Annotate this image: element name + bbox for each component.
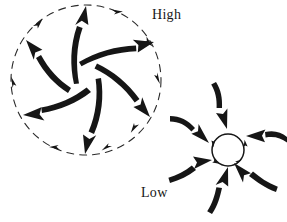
inflow-arrow [246, 130, 287, 143]
spiral-arrow [23, 87, 91, 120]
spiral-arrow [26, 40, 71, 93]
spiral-arrow-shaft [79, 46, 136, 67]
boundary-arrowhead-icon [102, 143, 112, 150]
inflow-arrow [168, 157, 212, 183]
inflow-arrow-head-icon [216, 109, 227, 129]
inflow-arrow-head-icon [246, 130, 265, 143]
inflow-arrow-shaft [249, 172, 278, 192]
inflow-arrow-head-icon [234, 163, 251, 182]
spiral-arrow-head-icon [83, 135, 96, 154]
spiral-arrow-head-icon [75, 6, 88, 25]
spiral-arrow-shaft [36, 55, 71, 93]
low-label: Low [141, 186, 168, 200]
boundary-arrowhead-icon [11, 76, 16, 88]
spiral-arrow-shaft [71, 26, 82, 84]
high-pressure-system [11, 5, 161, 155]
boundary-arrowhead-icon [49, 145, 60, 150]
high-label: High [152, 8, 181, 22]
pressure-system-diagram: .ink { fill: #161616; } .inkline { strok… [0, 0, 287, 222]
spiral-arrow-shaft [89, 78, 103, 134]
inflow-arrow-shaft [207, 187, 222, 214]
inflow-arrow [211, 82, 227, 129]
inflow-arrow [207, 167, 228, 214]
boundary-arrowhead-icon [112, 9, 123, 14]
boundary-arrowhead-icon [33, 19, 42, 28]
inflow-arrow-head-icon [191, 124, 209, 143]
inflow-arrow [234, 163, 278, 192]
spiral-arrow-head-icon [23, 107, 44, 120]
spiral-arrow [71, 6, 88, 84]
inflow-arrow-head-icon [193, 157, 212, 169]
center-arrowhead-icon [244, 140, 248, 147]
high-boundary-arrowheads [11, 9, 160, 150]
inflow-arrow-shaft [170, 116, 195, 132]
inflow-arrow-shaft [211, 82, 222, 108]
inflow-arrow-shaft [265, 131, 287, 142]
spiral-arrow [79, 40, 154, 66]
high-outflow-spiral-arrows [23, 6, 154, 154]
inflow-arrow-shaft [168, 166, 196, 183]
boundary-arrowhead-icon [131, 123, 139, 133]
high-boundary-dashed-circle [11, 5, 161, 155]
low-pressure-system [168, 82, 287, 214]
inflow-arrow [170, 116, 209, 143]
boundary-arrowhead-icon [154, 73, 160, 85]
low-inflow-arrows [168, 82, 287, 214]
inflow-arrow-head-icon [216, 167, 229, 187]
spiral-arrow [95, 64, 151, 118]
